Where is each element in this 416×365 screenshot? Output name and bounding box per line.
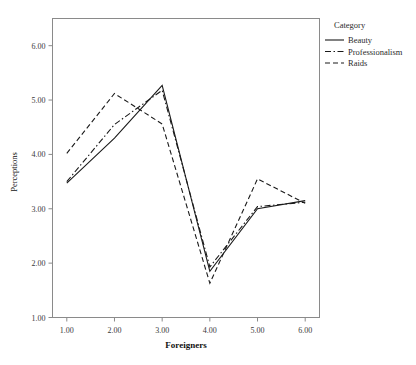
y-tick-label: 6.00: [32, 42, 46, 51]
legend-title: Category: [334, 20, 366, 30]
y-tick-label: 2.00: [32, 259, 46, 268]
legend-label-beauty: Beauty: [348, 35, 373, 45]
x-tick-label: 2.00: [107, 326, 121, 335]
line-chart: 1.002.003.004.005.006.00 1.002.003.004.0…: [0, 0, 416, 365]
x-tick-label: 4.00: [203, 326, 217, 335]
y-tick-label: 5.00: [32, 96, 46, 105]
x-tick-label: 6.00: [298, 326, 312, 335]
chart-svg: 1.002.003.004.005.006.00 1.002.003.004.0…: [0, 0, 416, 365]
x-tick-label: 1.00: [60, 326, 74, 335]
y-tick-label: 1.00: [32, 314, 46, 323]
y-tick-label: 4.00: [32, 150, 46, 159]
y-axis-title: Perceptions: [9, 152, 19, 192]
x-axis-title: Foreigners: [165, 340, 207, 350]
y-tick-label: 3.00: [32, 205, 46, 214]
legend-label-raids: Raids: [348, 58, 367, 68]
x-tick-label: 5.00: [251, 326, 265, 335]
x-tick-label: 3.00: [155, 326, 169, 335]
legend-label-professionalism: Professionalism: [348, 47, 403, 57]
